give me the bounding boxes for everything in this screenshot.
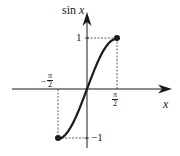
y-tick-label-neg1: −1 [91, 132, 103, 143]
x-tick-label-neg-pi-over-2: − π 2 [47, 72, 53, 89]
endpoint-max [114, 35, 120, 41]
x-tick-denominator: 2 [47, 81, 53, 89]
sine-graph [0, 0, 180, 156]
x-tick-minus-sign: − [41, 77, 47, 87]
y-axis-label-text: sin [62, 3, 79, 17]
y-axis-label-var: x [79, 3, 84, 17]
endpoint-min [55, 135, 61, 141]
x-tick-label-pi-over-2: π 2 [112, 91, 118, 108]
y-tick-label-1: 1 [76, 32, 82, 43]
x-axis-label: x [163, 98, 168, 110]
x-tick-denominator: 2 [112, 100, 118, 108]
y-axis-label: sin x [62, 4, 84, 16]
